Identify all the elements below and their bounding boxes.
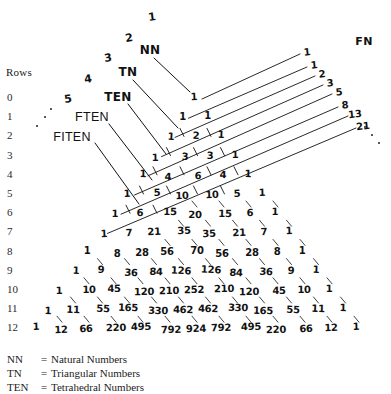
triangle-cell: 1 bbox=[100, 228, 107, 239]
triangle-cell: 330 bbox=[147, 305, 167, 317]
triangle-cell: 6 bbox=[247, 207, 254, 218]
triangle-cell: 1 bbox=[231, 149, 238, 160]
triangle-cell: 10 bbox=[297, 284, 310, 295]
fibonacci-value: 1 bbox=[310, 59, 318, 71]
triangle-cell: 56 bbox=[215, 248, 228, 259]
triangle-cell: 210 bbox=[159, 285, 179, 296]
triangle-cell: 6 bbox=[194, 170, 201, 181]
triangle-cell: 165 bbox=[117, 302, 137, 314]
triangle-cell: 21 bbox=[147, 226, 161, 238]
triangle-cell: 3 bbox=[181, 151, 188, 162]
triangle-cell: 792 bbox=[211, 322, 231, 334]
triangle-cell: 66 bbox=[299, 323, 313, 334]
triangle-cell: 1 bbox=[217, 129, 224, 140]
triangle-cell: 70 bbox=[190, 245, 203, 256]
triangle-cell: 220 bbox=[266, 324, 286, 336]
triangle-cell: 495 bbox=[241, 321, 261, 333]
triangle-cell: 1 bbox=[204, 110, 211, 121]
triangle-cell: 1 bbox=[190, 91, 197, 102]
row-index-8: 8 bbox=[7, 245, 27, 257]
callout-ften: FTEN bbox=[75, 110, 109, 124]
triangle-cell: 55 bbox=[96, 303, 110, 314]
diagonal-sequence-value: 3 bbox=[103, 51, 112, 65]
row-index-5: 5 bbox=[7, 187, 27, 199]
legend-equals-sign: = bbox=[41, 366, 51, 380]
row-index-0: 0 bbox=[7, 91, 27, 103]
legend-abbreviation: NN bbox=[7, 352, 41, 366]
triangle-cell: 1 bbox=[244, 168, 251, 179]
legend-row: TN=Triangular Numbers bbox=[7, 366, 144, 380]
triangle-cell: 36 bbox=[259, 265, 273, 277]
diagonal-sequence-value: 1 bbox=[147, 10, 156, 24]
triangle-cell: 1 bbox=[326, 283, 333, 294]
legend-abbreviation: TN bbox=[7, 366, 41, 380]
triangle-cell: 1 bbox=[112, 208, 119, 219]
legend-definition: Tetrahedral Numbers bbox=[51, 380, 144, 394]
triangle-cell: 2 bbox=[192, 130, 199, 141]
triangle-cell: 10 bbox=[175, 190, 189, 201]
legend-abbreviation: TEN bbox=[7, 380, 41, 394]
triangle-cell: 1 bbox=[32, 321, 39, 332]
triangle-cell: 220 bbox=[106, 322, 126, 334]
legend-row: NN=Natural Numbers bbox=[7, 352, 144, 366]
triangle-cell: 6 bbox=[137, 207, 144, 218]
triangle-cell: 4 bbox=[164, 171, 171, 182]
triangle-cell: 1 bbox=[179, 111, 186, 122]
triangle-cell: 7 bbox=[260, 226, 267, 237]
continuation-dots-left bbox=[33, 108, 55, 132]
triangle-cell: 1 bbox=[56, 285, 63, 296]
triangle-cell: 55 bbox=[286, 304, 300, 315]
fibonacci-value: 3 bbox=[326, 77, 334, 89]
row-index-10: 10 bbox=[7, 283, 27, 295]
triangle-cell: 35 bbox=[202, 228, 216, 240]
triangle-cell: 252 bbox=[184, 284, 204, 295]
callout-fiten: FITEN bbox=[53, 130, 91, 144]
fibonacci-value: 1 bbox=[303, 46, 311, 58]
triangle-cell: 84 bbox=[149, 265, 163, 277]
triangle-cell: 120 bbox=[134, 286, 154, 297]
diagonal-sequence-value: 2 bbox=[124, 31, 133, 45]
triangle-cell: 792 bbox=[161, 324, 181, 336]
callout-fn: FN bbox=[355, 35, 373, 48]
rows-header-label: Rows bbox=[6, 66, 32, 78]
legend-equals-sign: = bbox=[41, 380, 51, 394]
triangle-cell: 462 bbox=[197, 303, 217, 315]
diagonal-sequence-value: 5 bbox=[63, 92, 72, 106]
fibonacci-value: 2 bbox=[318, 68, 326, 80]
row-index-11: 11 bbox=[7, 302, 27, 314]
triangle-cell: 1 bbox=[84, 245, 91, 256]
diagonal-sequence-value: 4 bbox=[83, 72, 92, 86]
callout-ten: TEN bbox=[104, 90, 131, 104]
triangle-cell: 5 bbox=[153, 187, 160, 198]
triangle-cell: 1 bbox=[339, 302, 346, 313]
triangle-cell: 1 bbox=[258, 187, 265, 198]
triangle-cell: 35 bbox=[177, 225, 191, 237]
triangle-cell: 1 bbox=[44, 305, 51, 316]
triangle-cell: 1 bbox=[139, 168, 146, 179]
triangle-cell: 1 bbox=[167, 131, 174, 142]
triangle-cell: 3 bbox=[206, 150, 213, 161]
triangle-cell: 9 bbox=[287, 265, 294, 276]
legend-definition: Triangular Numbers bbox=[51, 366, 140, 380]
triangle-cell: 45 bbox=[272, 285, 285, 296]
row-index-4: 4 bbox=[7, 168, 27, 180]
triangle-cell: 45 bbox=[107, 283, 120, 294]
triangle-cell: 1 bbox=[123, 188, 130, 199]
triangle-cell: 1 bbox=[285, 225, 292, 236]
triangle-cell: 924 bbox=[186, 323, 206, 335]
triangle-cell: 4 bbox=[219, 169, 226, 180]
legend-definition: Natural Numbers bbox=[51, 352, 127, 366]
triangle-cell: 1 bbox=[72, 265, 79, 276]
triangle-cell: 21 bbox=[232, 227, 246, 239]
triangle-cell: 8 bbox=[274, 246, 281, 257]
row-index-9: 9 bbox=[7, 264, 27, 276]
triangle-cell: 9 bbox=[97, 264, 104, 275]
row-index-7: 7 bbox=[7, 225, 27, 237]
triangle-cell: 12 bbox=[324, 322, 338, 333]
pascal-triangle-figure: Rows 0123456789101112 111121133114641151… bbox=[0, 0, 391, 394]
triangle-cell: 11 bbox=[66, 304, 80, 315]
continuation-dots-right bbox=[364, 126, 386, 150]
legend-row: TEN=Tetrahedral Numbers bbox=[7, 380, 144, 394]
row-index-2: 2 bbox=[7, 129, 27, 141]
triangle-cell: 11 bbox=[311, 303, 325, 314]
